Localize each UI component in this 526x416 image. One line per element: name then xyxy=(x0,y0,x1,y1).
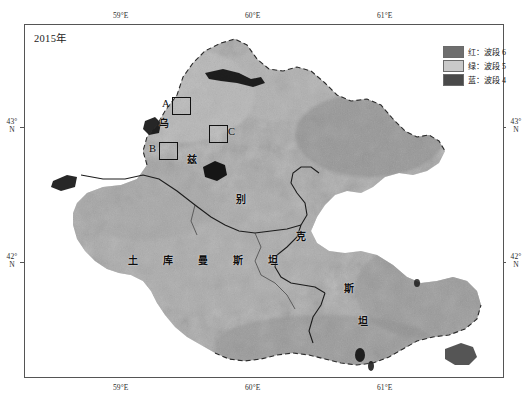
study-site-box-c[interactable] xyxy=(209,125,228,143)
axis-tick-top-60e: 60°E xyxy=(245,11,260,20)
legend-item-blue: 蓝：波段 4 xyxy=(443,74,506,85)
study-site-label-a: A xyxy=(162,98,170,109)
axis-tick-left-42n: 42° N xyxy=(3,253,21,269)
color-swatch-icon-blue xyxy=(443,74,464,86)
study-site-box-b[interactable] xyxy=(159,142,178,160)
axis-tick-left-43n: 43° N xyxy=(3,118,21,134)
band-combination-legend: 红：波段 6 绿：波段 5 蓝：波段 4 xyxy=(441,44,508,90)
legend-item-green: 绿：波段 5 xyxy=(443,60,506,71)
legend-label-blue: 蓝：波段 4 xyxy=(468,74,506,85)
axis-tick-bottom-59e: 59°E xyxy=(113,383,128,392)
axis-tick-left-42n-hem: N xyxy=(9,260,15,269)
axis-tick-left-43n-hem: N xyxy=(9,125,15,134)
axis-tick-right-42n-hem: N xyxy=(513,260,519,269)
legend-item-red: 红：波段 6 xyxy=(443,46,506,57)
map-plot-area: A B C 乌 兹 别 克 斯 坦 土 库 曼 斯 坦 xyxy=(24,24,504,378)
study-site-label-c: C xyxy=(228,126,235,137)
axis-tick-top-59e: 59°E xyxy=(113,11,128,20)
axis-tick-bottom-61e: 61°E xyxy=(377,383,392,392)
map-title: 2015年 xyxy=(34,30,67,45)
axis-tick-right-42n: 42° N xyxy=(507,253,525,269)
study-site-label-b: B xyxy=(149,143,156,154)
axis-tick-right-43n-hem: N xyxy=(513,125,519,134)
axis-tick-top-61e: 61°E xyxy=(377,11,392,20)
color-swatch-icon-red xyxy=(443,46,464,58)
study-site-box-a[interactable] xyxy=(172,97,191,115)
axis-tick-right-43n: 43° N xyxy=(507,118,525,134)
map-figure: 59°E 60°E 61°E 59°E 60°E 61°E 43° N 42° … xyxy=(0,0,526,416)
color-swatch-icon-green xyxy=(443,60,464,72)
legend-label-green: 绿：波段 5 xyxy=(468,60,506,71)
satellite-raster-svg xyxy=(25,25,503,377)
satellite-raster xyxy=(25,25,503,377)
legend-label-red: 红：波段 6 xyxy=(468,46,506,57)
axis-tick-bottom-60e: 60°E xyxy=(245,383,260,392)
